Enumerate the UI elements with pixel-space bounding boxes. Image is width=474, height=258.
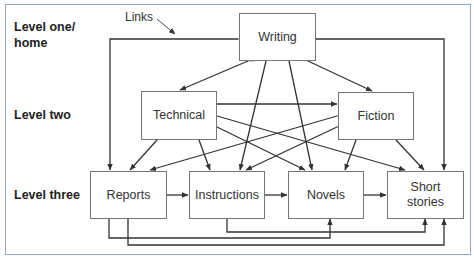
level-one-label-line2: home — [14, 35, 75, 51]
level-two-label: Level two — [14, 107, 71, 123]
node-instructions-label: Instructions — [195, 188, 259, 203]
level-one-label: Level one/ home — [14, 19, 75, 51]
node-technical[interactable]: Technical — [141, 91, 217, 140]
node-short-stories[interactable]: Short stories — [387, 171, 464, 219]
level-three-label: Level three — [14, 187, 80, 203]
node-fiction-label: Fiction — [358, 109, 395, 124]
node-instructions[interactable]: Instructions — [189, 171, 265, 219]
node-technical-label: Technical — [153, 108, 205, 123]
node-novels[interactable]: Novels — [288, 171, 364, 219]
node-short-stories-label-line2: stories — [407, 195, 444, 210]
node-writing-label: Writing — [258, 30, 297, 45]
node-writing[interactable]: Writing — [239, 13, 316, 61]
node-fiction[interactable]: Fiction — [338, 92, 414, 140]
node-short-stories-label-line1: Short — [411, 180, 441, 195]
node-reports[interactable]: Reports — [90, 171, 167, 219]
links-annotation: Links — [125, 10, 153, 24]
level-one-label-line1: Level one/ — [14, 19, 75, 35]
node-novels-label: Novels — [307, 188, 345, 203]
node-reports-label: Reports — [107, 188, 151, 203]
